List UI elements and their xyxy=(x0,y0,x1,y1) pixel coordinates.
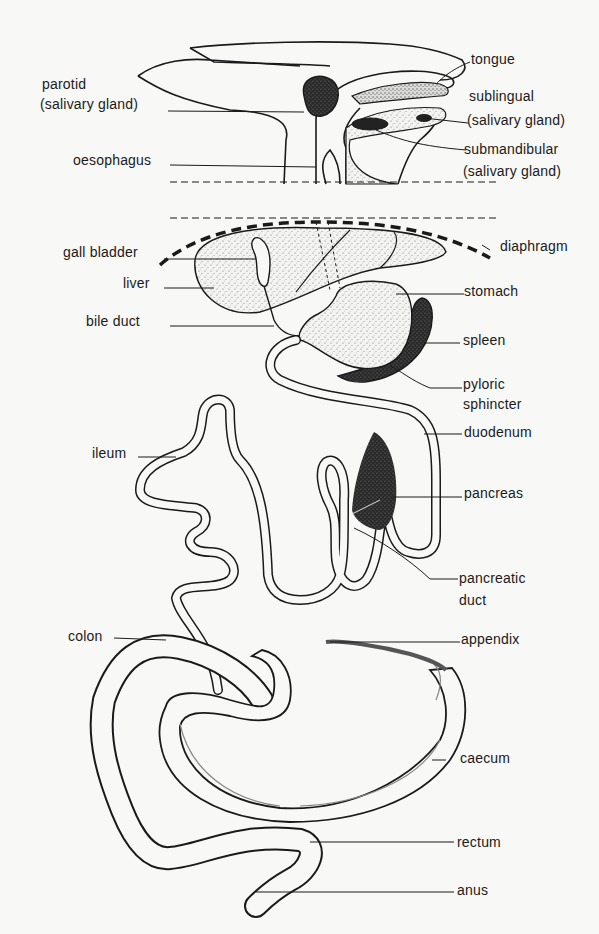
label-pyloric-sub: sphincter xyxy=(463,396,522,413)
label-submandibular: submandibular xyxy=(464,141,558,158)
label-liver: liver xyxy=(123,275,150,292)
sublingual-gland-body xyxy=(352,83,448,105)
label-duodenum: duodenum xyxy=(464,424,532,441)
pancreas xyxy=(352,432,396,530)
label-bile-duct: bile duct xyxy=(86,313,140,330)
label-ileum: ileum xyxy=(92,445,126,462)
label-parotid: parotid xyxy=(42,76,86,93)
label-anus: anus xyxy=(457,882,488,899)
label-pancreas: pancreas xyxy=(464,485,523,502)
label-sublingual-sub: (salivary gland) xyxy=(467,112,565,129)
label-spleen: spleen xyxy=(463,332,505,349)
caecum-and-transverse-colon xyxy=(159,650,465,822)
label-oesophagus: oesophagus xyxy=(73,152,151,169)
label-pancreatic: pancreatic xyxy=(459,570,526,587)
digestive-system-diagram: parotid (salivary gland) tongue sublingu… xyxy=(0,0,599,934)
parotid-gland xyxy=(303,77,338,117)
appendix xyxy=(326,642,446,670)
label-parotid-sub: (salivary gland) xyxy=(40,96,138,113)
label-caecum: caecum xyxy=(460,750,510,767)
label-submandibular-sub: (salivary gland) xyxy=(463,163,561,180)
label-diaphragm: diaphragm xyxy=(500,238,568,255)
label-rectum: rectum xyxy=(457,834,501,851)
label-appendix: appendix xyxy=(461,631,519,648)
label-pyloric: pyloric xyxy=(463,376,505,393)
label-tongue: tongue xyxy=(471,51,515,68)
label-gall-bladder: gall bladder xyxy=(63,244,138,261)
stomach xyxy=(299,281,412,368)
submandibular-gland xyxy=(352,118,388,130)
label-sublingual: sublingual xyxy=(469,88,534,105)
label-colon: colon xyxy=(68,628,102,645)
label-pancreatic-sub: duct xyxy=(459,592,486,609)
label-stomach: stomach xyxy=(464,283,518,300)
